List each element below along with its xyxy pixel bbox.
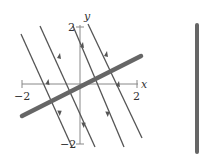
phase-portrait: y x −2 2 2 −2 (0, 0, 212, 158)
y-tick-label-2: 2 (68, 21, 75, 34)
arrow-icon (46, 79, 50, 85)
y-axis-label: y (83, 10, 91, 23)
trajectory-2 (40, 26, 95, 147)
x-tick-label-2: 2 (133, 90, 140, 103)
y-tick-label-neg2: −2 (60, 138, 76, 151)
x-axis-label: x (141, 78, 148, 91)
arrow-icon (57, 53, 61, 59)
arrow-icon (104, 51, 108, 57)
equilibrium-line (22, 56, 141, 116)
x-tick-label-neg2: −2 (14, 90, 30, 103)
